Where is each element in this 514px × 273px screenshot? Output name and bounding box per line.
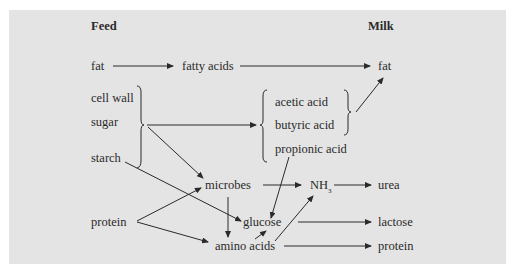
milk-urea: urea <box>378 178 400 192</box>
header-milk: Milk <box>368 19 394 33</box>
fatty-acids: fatty acids <box>182 59 234 73</box>
microbes: microbes <box>205 178 251 192</box>
milk-protein: protein <box>378 239 413 253</box>
feed-protein: protein <box>91 215 126 229</box>
arrow-vfa-milkfat <box>356 78 383 112</box>
feed-starch: starch <box>91 151 121 165</box>
header-feed: Feed <box>91 19 117 33</box>
milk-lactose: lactose <box>378 215 413 229</box>
arrow-protein-microbes <box>137 188 201 221</box>
propionic-acid: propionic acid <box>275 142 347 156</box>
arrow-aminoacids-glucose <box>255 231 266 239</box>
feed-cell-wall: cell wall <box>91 91 134 105</box>
glucose: glucose <box>243 215 281 229</box>
acetic-acid: acetic acid <box>275 95 328 109</box>
feed-sugar: sugar <box>91 115 118 129</box>
brace-acetic-butyric <box>344 90 351 135</box>
arrows-layer <box>0 0 514 273</box>
brace-feed-carbs <box>137 86 144 168</box>
amino-acids: amino acids <box>215 239 275 253</box>
brace-vfa <box>260 90 267 162</box>
feed-fat: fat <box>91 59 104 73</box>
butyric-acid: butyric acid <box>275 118 334 132</box>
milk-fat: fat <box>378 59 391 73</box>
arrow-propionic-glucose <box>271 157 289 218</box>
arrow-protein-aminoacids <box>137 222 208 242</box>
nh3-subscript: 3 <box>328 187 332 195</box>
nh3: NH3 <box>310 178 332 198</box>
nh3-text: NH <box>310 178 328 192</box>
arrow-carbs-microbes <box>148 127 203 178</box>
